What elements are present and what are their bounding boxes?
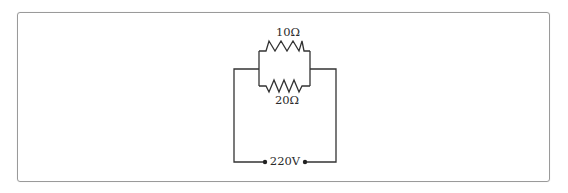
voltage-source-label: 220V <box>270 156 300 168</box>
resistor-r2-icon <box>259 80 310 92</box>
source-terminal-right-icon <box>303 160 307 164</box>
resistor-r1-label: 10Ω <box>276 27 300 39</box>
right-outer-wire <box>307 69 336 162</box>
resistor-r1-icon <box>259 41 310 51</box>
resistor-r2-label: 20Ω <box>275 95 299 107</box>
source-terminal-left-icon <box>263 160 267 164</box>
